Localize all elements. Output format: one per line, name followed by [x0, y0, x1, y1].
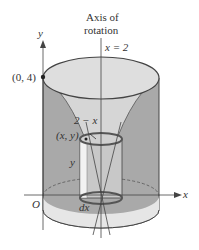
- point-xy-label: (x, y): [56, 130, 79, 141]
- point-0-4: [41, 75, 45, 79]
- shell-thickness-strip: [80, 142, 87, 198]
- x-axis-label: x: [183, 189, 188, 200]
- axis-title-2: rotation: [84, 25, 118, 36]
- y-axis-label: y: [38, 28, 43, 39]
- origin-label: O: [32, 199, 40, 210]
- axis-equation: x = 2: [105, 42, 128, 53]
- point-0-4-label: (0, 4): [12, 72, 36, 83]
- axis-title-1: Axis of: [86, 12, 119, 23]
- y-axis-arrow: [40, 40, 46, 48]
- height-label: y: [70, 157, 75, 168]
- dx-label: dx: [79, 202, 89, 213]
- solid-of-revolution-diagram: [0, 0, 199, 250]
- x-axis-arrow: [174, 192, 182, 198]
- radius-label: 2 − x: [74, 115, 97, 126]
